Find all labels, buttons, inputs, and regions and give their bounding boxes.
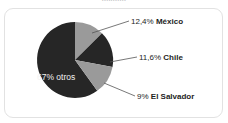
slice-name-chile: Chile bbox=[163, 53, 183, 62]
slice-value-mexico: 12,4% bbox=[131, 17, 154, 26]
slice-value-chile: 11,6% bbox=[139, 53, 161, 62]
pie-chart-figure: ........... 12,4% México 11,6% Chile 9% … bbox=[0, 0, 228, 123]
slice-name-mexico: México bbox=[156, 17, 183, 26]
slice-label-chile: 11,6% Chile bbox=[139, 53, 183, 63]
leader-line-chile bbox=[110, 57, 137, 62]
slice-label-otros: 67% otros bbox=[37, 72, 75, 82]
pie-chart-graphic bbox=[0, 0, 228, 123]
slice-value-el-salvador: 9% bbox=[137, 92, 149, 101]
leader-line-el-salvador bbox=[104, 83, 135, 96]
slice-label-el-salvador: 9% El Salvador bbox=[137, 92, 194, 102]
slice-label-mexico: 12,4% México bbox=[131, 17, 183, 27]
slice-name-el-salvador: El Salvador bbox=[151, 92, 195, 101]
leader-line-mexico bbox=[92, 21, 129, 33]
